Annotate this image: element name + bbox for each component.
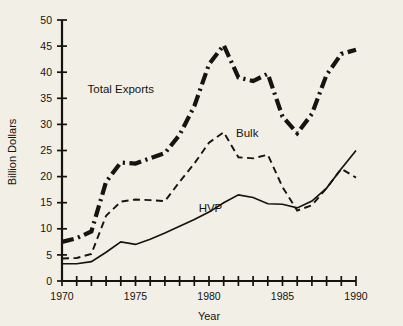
x-axis-title: Year	[198, 310, 221, 322]
y-tick-label: 25	[40, 144, 52, 156]
y-tick-label: 50	[40, 14, 52, 26]
chart-background	[0, 0, 403, 326]
y-tick-label: 40	[40, 66, 52, 78]
x-tick-label: 1970	[50, 290, 74, 302]
series-label-total-exports: Total Exports	[88, 83, 155, 95]
x-tick-label: 1975	[124, 290, 148, 302]
y-tick-label: 20	[40, 170, 52, 182]
y-axis-title: Billion Dollars	[6, 118, 18, 185]
x-tick-label: 1990	[344, 290, 368, 302]
y-tick-label: 10	[40, 222, 52, 234]
y-tick-label: 15	[40, 196, 52, 208]
series-label-hvp: HVP	[199, 202, 223, 214]
chart-figure: 05101520253035404550 1970197519801985199…	[0, 0, 403, 326]
y-tick-label: 0	[46, 275, 52, 287]
x-tick-label: 1980	[197, 290, 221, 302]
y-tick-label: 35	[40, 92, 52, 104]
y-tick-label: 5	[46, 249, 52, 261]
line-chart: 05101520253035404550 1970197519801985199…	[0, 0, 403, 326]
y-tick-label: 45	[40, 40, 52, 52]
y-tick-label: 30	[40, 118, 52, 130]
series-label-bulk: Bulk	[236, 127, 259, 139]
x-tick-label: 1985	[271, 290, 295, 302]
